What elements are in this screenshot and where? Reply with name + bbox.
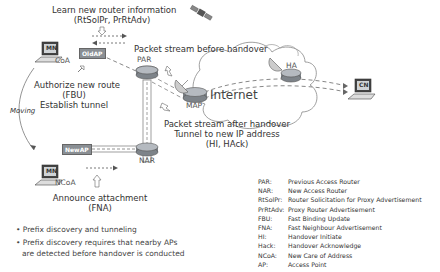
mn-old-label: MN (46, 44, 57, 51)
legend-row: HI:Handover Initiate (258, 232, 422, 241)
moving-label: Moving (10, 106, 35, 116)
cn-label: CN (359, 81, 368, 88)
hollow-arrow-top (98, 27, 106, 35)
legend-row: AP:Access Point (258, 260, 422, 269)
map-label: MAP (186, 101, 202, 110)
legend-row: FBU:Fast Binding Update (258, 214, 422, 223)
hollow-arrow-nar (160, 103, 170, 111)
packet-after-label: Packet stream after handover Tunnel to n… (162, 119, 292, 149)
nar-label: NAR (139, 156, 155, 165)
bullet-list: • Prefix discovery and tunneling • Prefi… (16, 223, 185, 260)
packet-before-label: Packet stream before handover (134, 44, 267, 54)
abbreviation-legend: PAR:Previous Access Router NAR:New Acces… (258, 177, 422, 269)
router-nar-icon (136, 143, 158, 156)
router-par-icon (136, 66, 158, 79)
authorize-label: Authorize new route (FBU) Establish tunn… (34, 80, 114, 110)
ncoa-label: NCoA (55, 178, 76, 187)
learn-router-title: Learn new router information (RtSolPr, P… (52, 5, 172, 25)
satellite-dish-map-icon (175, 80, 188, 93)
old-ap-node: OldAP (79, 48, 106, 59)
hollow-arrow-par (165, 66, 172, 76)
announce-label: Announce attachment (FNA) (50, 193, 150, 213)
legend-row: NCoA:New Care of Address (258, 251, 422, 260)
par-label: PAR (137, 55, 151, 64)
new-ap-node: NewAP (62, 144, 92, 155)
ha-label: HA (286, 61, 297, 70)
legend-row: PrRtAdv:Proxy Router Advertisement (258, 205, 422, 214)
legend-row: PAR:Previous Access Router (258, 177, 422, 186)
satellite-icon (190, 4, 213, 21)
legend-row: FNA:Fast Neighbour Advertisement (258, 223, 422, 232)
internet-label: Internet (210, 90, 258, 100)
mn-new-label: MN (46, 167, 57, 174)
coa-label: CoA (55, 56, 70, 65)
legend-row: NAR:New Access Router (258, 186, 422, 195)
legend-row: RtSolPr:Router Solicitation for Proxy Ad… (258, 195, 422, 204)
hollow-arrow-fna (93, 175, 101, 187)
legend-row: Hack:Handover Acknowledge (258, 241, 422, 250)
router-ha-icon (281, 69, 301, 82)
hollow-arrow-authorize (78, 66, 84, 72)
bullet-item-continuation: are detected before handover is conducte… (16, 247, 185, 260)
bullet-item: • Prefix discovery and tunneling (16, 223, 185, 236)
